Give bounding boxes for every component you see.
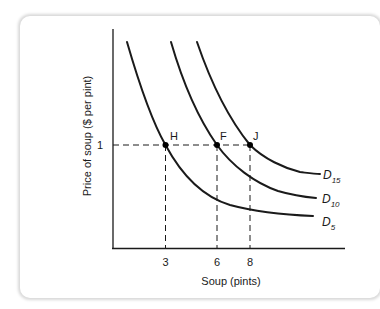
point-h-label: H [170,130,178,142]
point-f [214,142,220,148]
y-tick-1: 1 [97,139,103,151]
label-d15: D15 [323,168,341,185]
x-axis-label: Soup (pints) [201,275,260,287]
point-j-label: J [253,130,259,142]
point-h [163,142,169,148]
point-f-label: F [220,130,227,142]
label-d10: D10 [322,192,340,209]
y-axis-label: Price of soup ($ per pint) [81,76,93,196]
x-tick-6: 6 [214,256,220,268]
x-tick-3: 3 [162,256,168,268]
curve-d15 [197,42,320,174]
curve-d10 [171,42,316,198]
x-tick-8: 8 [247,256,253,268]
label-d5: D5 [322,215,336,232]
point-j [247,142,253,148]
curve-d5 [127,42,313,216]
